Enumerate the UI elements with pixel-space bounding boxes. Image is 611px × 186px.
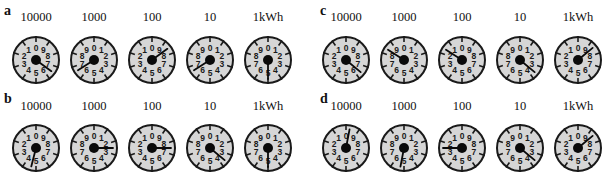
dial-digit: 9 — [351, 45, 356, 55]
dial-digit: 0 — [576, 131, 581, 141]
dial-label: 10 — [204, 10, 217, 24]
dial-digit: 1 — [336, 133, 341, 143]
panel-letter: a — [4, 3, 11, 18]
dial-label: 1kWh — [253, 10, 284, 24]
dial-digit: 0 — [344, 43, 349, 53]
dial-hub — [341, 55, 351, 65]
dial-1000: 10000123456789 — [71, 10, 117, 84]
dial-digit: 6 — [258, 65, 263, 75]
dial-digit: 0 — [150, 43, 155, 53]
dial-label: 100 — [143, 99, 162, 113]
panel-b: b100000123456789100001234567891000123456… — [4, 91, 291, 172]
dial-digit: 0 — [518, 43, 523, 53]
dial-1kwh: 1kWh0123456789 — [245, 99, 291, 172]
dial-digit: 0 — [92, 43, 97, 53]
dial-digit: 4 — [336, 153, 341, 163]
dial-digit: 5 — [518, 156, 523, 166]
dial-label: 10000 — [330, 99, 361, 113]
panel-d: d100000123456789100001234567891000123456… — [320, 91, 601, 172]
dial-digit: 9 — [41, 45, 46, 55]
dial-digit: 8 — [356, 51, 361, 61]
dial-digit: 4 — [568, 65, 573, 75]
dial-digit: 4 — [409, 153, 414, 163]
dial-digit: 1 — [568, 133, 573, 143]
dial-label: 100 — [453, 99, 472, 113]
dial-digit: 0 — [208, 43, 213, 53]
dial-digit: 9 — [467, 45, 472, 55]
dial-digit: 4 — [273, 65, 278, 75]
dial-label: 1000 — [392, 99, 417, 113]
dial-10000: 100000123456789 — [323, 99, 369, 172]
dial-hub — [457, 143, 467, 153]
dial-label: 10000 — [330, 10, 361, 24]
dial-digit: 5 — [150, 156, 155, 166]
dial-digit: 4 — [99, 153, 104, 163]
dial-digit: 9 — [351, 133, 356, 143]
dial-digit: 4 — [26, 153, 31, 163]
dial-10000: 100000123456789 — [323, 10, 369, 84]
dial-digit: 5 — [150, 68, 155, 78]
dial-hub — [515, 143, 525, 153]
panel-letter: b — [4, 91, 12, 106]
dial-digit: 4 — [142, 153, 147, 163]
dial-digit: 4 — [452, 65, 457, 75]
dial-digit: 6 — [394, 65, 399, 75]
dial-10: 100123456789 — [497, 99, 543, 172]
dial-digit: 4 — [142, 65, 147, 75]
dial-label: 1kWh — [253, 99, 284, 113]
dial-digit: 9 — [258, 133, 263, 143]
dial-1kwh: 1kWh0123456789 — [555, 10, 601, 84]
dial-digit: 9 — [84, 133, 89, 143]
dial-hub — [399, 143, 409, 153]
meter-dials-figure: a100000123456789100001234567891000123456… — [0, 0, 611, 186]
dial-digit: 1 — [336, 45, 341, 55]
dial-10: 100123456789 — [187, 10, 233, 84]
dial-digit: 9 — [510, 45, 515, 55]
dial-label: 1000 — [82, 10, 107, 24]
dial-digit: 5 — [344, 68, 349, 78]
dial-100: 1000123456789 — [129, 99, 175, 172]
dial-label: 100 — [143, 10, 162, 24]
dial-digit: 9 — [41, 133, 46, 143]
dial-digit: 1 — [26, 45, 31, 55]
dial-label: 10 — [514, 10, 527, 24]
dial-hub — [205, 143, 215, 153]
dial-digit: 4 — [215, 65, 220, 75]
dial-1kwh: 1kWh0123456789 — [555, 99, 601, 172]
dial-digit: 3 — [104, 59, 109, 69]
panel-letter: c — [320, 3, 326, 18]
dial-digit: 5 — [402, 68, 407, 78]
dial-10000: 100000123456789 — [13, 99, 59, 172]
dial-digit: 5 — [460, 68, 465, 78]
dial-label: 10000 — [20, 99, 51, 113]
dial-digit: 9 — [258, 45, 263, 55]
dial-10000: 100000123456789 — [13, 10, 59, 84]
dial-digit: 9 — [200, 133, 205, 143]
panels-layer: a100000123456789100001234567891000123456… — [4, 3, 601, 172]
dial-hub — [147, 55, 157, 65]
panel-c: c100000123456789100001234567891000123456… — [320, 3, 601, 84]
dial-hub — [263, 143, 273, 153]
dial-digit: 0 — [266, 131, 271, 141]
dial-digit: 9 — [510, 133, 515, 143]
dial-hub — [31, 143, 41, 153]
dial-10: 100123456789 — [497, 10, 543, 84]
dial-label: 10 — [514, 99, 527, 113]
dial-digit: 4 — [99, 65, 104, 75]
dial-digit: 8 — [46, 51, 51, 61]
dial-100: 1000123456789 — [439, 10, 485, 84]
dial-digit: 9 — [200, 45, 205, 55]
dial-hub — [147, 143, 157, 153]
dial-digit: 4 — [452, 153, 457, 163]
dial-digit: 5 — [576, 68, 581, 78]
dial-digit: 0 — [34, 131, 39, 141]
dial-digit: 5 — [344, 156, 349, 166]
dial-digit: 1 — [26, 133, 31, 143]
dial-label: 10 — [204, 99, 217, 113]
dial-digit: 4 — [409, 65, 414, 75]
dial-digit: 0 — [92, 131, 97, 141]
dial-digit: 8 — [46, 139, 51, 149]
dial-digit: 0 — [266, 43, 271, 53]
dial-1000: 10000123456789 — [381, 10, 427, 84]
dial-hub — [399, 55, 409, 65]
